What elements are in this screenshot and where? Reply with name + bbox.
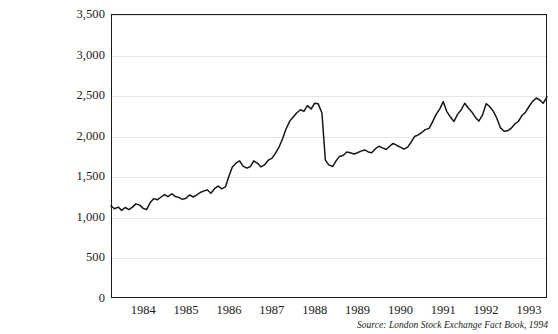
gridline-y-1000 [112,218,546,219]
y-axis: 05001,0001,5002,0002,5003,0003,500 [0,0,105,334]
y-axis-tick-label: 1,500 [5,170,105,183]
gridline-y-500 [112,258,546,259]
x-axis-tick-label: 1991 [431,304,456,317]
source-note: Source: London Stock Exchange Fact Book,… [357,320,548,330]
gridline-y-2500 [112,96,546,97]
x-axis-tick-label: 1988 [302,304,327,317]
gridline-y-1500 [112,177,546,178]
y-axis-tick-label: 0 [5,292,105,305]
y-axis-tick-label: 500 [5,251,105,264]
x-axis-tick-label: 1986 [216,304,241,317]
gridline-y-2000 [112,137,546,138]
gridline-y-3000 [112,56,546,57]
y-axis-tick-label: 3,000 [5,49,105,62]
x-axis-tick-label: 1989 [345,304,370,317]
x-axis-tick-label: 1985 [174,304,199,317]
y-axis-tick-label: 1,000 [5,211,105,224]
y-axis-tick-label: 2,000 [5,130,105,143]
chart-container: 05001,0001,5002,0002,5003,0003,500 19841… [0,0,558,334]
y-axis-tick-label: 3,500 [5,8,105,21]
x-axis-tick-label: 1987 [259,304,284,317]
x-axis-tick-label: 1984 [131,304,156,317]
x-axis-tick-label: 1993 [516,304,541,317]
plot-area [111,14,547,298]
x-axis-tick-label: 1992 [474,304,499,317]
y-axis-tick-label: 2,500 [5,89,105,102]
gridline-y-3500 [112,15,546,16]
x-axis-tick-label: 1990 [388,304,413,317]
